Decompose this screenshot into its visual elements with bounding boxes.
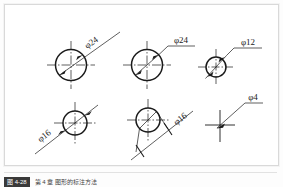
figure-page: φ24 φ24 [0, 0, 283, 187]
arrowhead-lower-left [58, 130, 65, 135]
figure-circle-phi24-shelf[interactable]: φ24 [123, 35, 195, 89]
leader-diagonal [217, 103, 245, 128]
dimension-label: φ16 [171, 110, 189, 127]
figure-circle-phi12[interactable]: φ12 [198, 37, 262, 85]
caption-tag: 图 4-28 [4, 177, 30, 187]
figure-center-mark-phi4[interactable]: φ4 [205, 92, 263, 142]
technical-drawing-canvas: φ24 φ24 [5, 5, 278, 165]
figure-circle-phi24-oblique[interactable]: φ24 [47, 32, 120, 89]
figure-circle-phi16-oblique[interactable]: φ16 [35, 102, 98, 154]
leader-diagonal [159, 46, 168, 55]
dimension-label: φ16 [35, 127, 53, 144]
figure-circle-phi16-external[interactable]: φ16 [127, 99, 193, 160]
leader-diagonal [227, 48, 235, 56]
caption-divider [4, 172, 277, 173]
caption-bar: 图 4-28 第 4 章 图形的标注方法 [4, 176, 277, 187]
dimension-label: φ12 [241, 37, 255, 47]
dimension-label: φ4 [248, 92, 258, 102]
dimension-label: φ24 [174, 35, 189, 45]
caption-text: 第 4 章 图形的标注方法 [35, 178, 97, 186]
arrowhead-lower-left [59, 70, 66, 75]
drawing-frame: φ24 φ24 [4, 4, 279, 166]
